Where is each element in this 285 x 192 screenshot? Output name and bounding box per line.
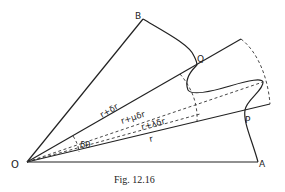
solid-lines bbox=[27, 19, 270, 162]
label-O: O bbox=[11, 159, 19, 170]
label-B: B bbox=[135, 11, 141, 21]
inner-arc-dashed bbox=[180, 74, 197, 122]
dashed-lines bbox=[27, 39, 270, 162]
label-Q: Q bbox=[197, 54, 204, 64]
label-r: r bbox=[148, 133, 154, 144]
ray-lower-r bbox=[27, 104, 270, 162]
label-delta-theta: δθ bbox=[80, 140, 90, 150]
curve-QPA bbox=[187, 66, 263, 162]
label-P: P bbox=[245, 115, 251, 125]
figure-caption: Fig. 12.16 bbox=[114, 174, 155, 185]
ray-upper-r-plus-dr bbox=[27, 39, 241, 162]
curve-BQ bbox=[143, 19, 197, 66]
ray-lambda-dashed bbox=[27, 114, 200, 162]
diagram-canvas: O A B Q P r+δr r+μδr r+λδr r δθ Fig. 12.… bbox=[0, 0, 285, 192]
label-A: A bbox=[259, 159, 266, 169]
label-r-plus-dr: r+δr bbox=[98, 101, 120, 120]
